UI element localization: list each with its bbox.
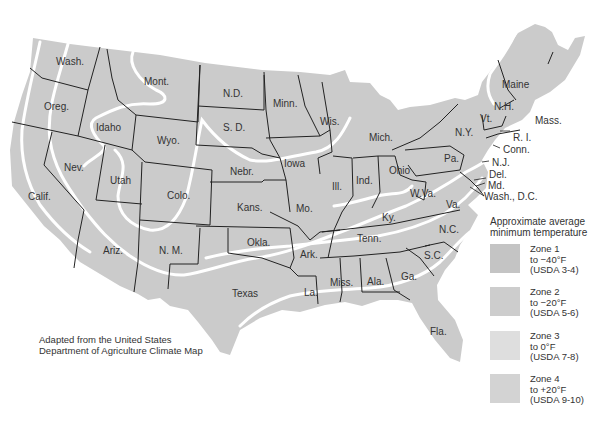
state-label: Mass. (535, 116, 562, 126)
state-label: Fla. (430, 327, 447, 337)
state-label: Ga. (401, 272, 417, 282)
legend-title-line-1: Approximate average (490, 216, 587, 227)
legend-item-zone-1: Zone 1 to −40°F (USDA 3-4) (490, 244, 605, 288)
state-label: N.D. (223, 89, 243, 99)
state-label: Texas (232, 289, 258, 299)
state-label: Colo. (167, 191, 190, 201)
legend-text-zone-1: Zone 1 to −40°F (USDA 3-4) (530, 244, 579, 276)
zone-usda: (USDA 5-6) (530, 308, 579, 319)
state-label: N.H. (494, 102, 514, 112)
state-label: N.Y. (455, 128, 473, 138)
state-label: S. D. (223, 123, 245, 133)
legend-swatch-zone-4 (490, 374, 520, 403)
state-label: Nev. (64, 163, 84, 173)
state-label: Calif. (28, 192, 51, 202)
legend-text-zone-3: Zone 3 to 0°F (USDA 7-8) (530, 331, 579, 363)
legend-text-zone-4: Zone 4 to +20°F (USDA 9-10) (530, 374, 584, 406)
state-label: Miss. (330, 278, 353, 288)
state-label: Iowa (284, 159, 305, 169)
legend-text-zone-2: Zone 2 to −20°F (USDA 5-6) (530, 287, 579, 319)
state-label: R. I. (513, 133, 531, 143)
state-label: Nebr. (230, 167, 254, 177)
map-credit: Adapted from the United States Departmen… (39, 334, 203, 356)
state-label: Ill. (332, 182, 342, 192)
zone-name: Zone 2 (530, 287, 579, 298)
legend-title: Approximate average minimum temperature (490, 216, 587, 238)
zone-name: Zone 1 (530, 244, 579, 255)
state-label: Ariz. (103, 246, 123, 256)
state-label: Mich. (369, 133, 393, 143)
state-label: Oreg. (44, 102, 69, 112)
legend-item-zone-4: Zone 4 to +20°F (USDA 9-10) (490, 374, 605, 418)
state-label: Ala. (367, 277, 384, 287)
state-label: Wyo. (157, 136, 180, 146)
zone-name: Zone 4 (530, 374, 584, 385)
legend-swatch-zone-1 (490, 244, 520, 273)
state-label: Kans. (237, 203, 263, 213)
state-label: Okla. (247, 238, 270, 248)
state-label: W.Va. (410, 189, 436, 199)
state-label: Del. (489, 170, 507, 180)
legend-item-zone-2: Zone 2 to −20°F (USDA 5-6) (490, 287, 605, 331)
state-label: Vt. (480, 114, 492, 124)
state-label: Tenn. (357, 234, 381, 244)
state-label: Ky. (382, 213, 396, 223)
state-label: Md. (488, 181, 505, 191)
state-label: Wash., D.C. (484, 192, 538, 202)
credit-line-2: Department of Agriculture Climate Map (39, 345, 203, 356)
zone-usda: (USDA 3-4) (530, 265, 579, 276)
state-label: Ark. (300, 250, 318, 260)
state-label: Conn. (503, 145, 530, 155)
state-label: Idaho (96, 123, 121, 133)
legend-swatch-zone-2 (490, 287, 520, 316)
zone-name: Zone 3 (530, 331, 579, 342)
credit-line-1: Adapted from the United States (39, 334, 203, 345)
state-label: Wash. (56, 57, 84, 67)
state-label: Va. (446, 200, 460, 210)
state-label: Pa. (444, 154, 459, 164)
state-label: La. (304, 288, 318, 298)
state-label: Mo. (296, 204, 313, 214)
state-label: Utah (110, 176, 131, 186)
state-label: Wis. (320, 117, 339, 127)
state-label: N.J. (492, 158, 510, 168)
state-label: Ind. (356, 176, 373, 186)
state-label: S.C. (424, 251, 443, 261)
zone-usda: (USDA 7-8) (530, 352, 579, 363)
state-label: Mont. (144, 77, 169, 87)
state-label: Ohio (389, 166, 410, 176)
state-label: N. M. (159, 246, 183, 256)
state-label: N.C. (439, 225, 459, 235)
legend-swatch-zone-3 (490, 331, 520, 360)
legend-item-zone-3: Zone 3 to 0°F (USDA 7-8) (490, 331, 605, 375)
state-label: Maine (502, 80, 529, 90)
state-label: Minn. (273, 99, 297, 109)
legend-title-line-2: minimum temperature (490, 227, 587, 238)
zone-usda: (USDA 9-10) (530, 395, 584, 406)
